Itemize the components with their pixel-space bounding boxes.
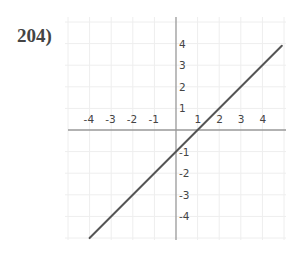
x-tick-label: -4 [84,113,95,125]
axes [68,17,286,240]
x-tick-label: 1 [195,113,202,125]
x-tick-label: -3 [105,113,115,125]
y-tick-label: 1 [179,102,186,114]
y-tick-label: -4 [179,210,190,222]
x-tick-label: -1 [148,113,158,125]
plotted-line [90,46,282,238]
y-tick-label: 3 [179,59,186,71]
x-tick-label: 3 [238,113,245,125]
y-tick-label: 4 [179,38,186,50]
x-tick-label: -2 [127,113,137,125]
y-tick-label: -2 [179,167,189,179]
line-y-equals-x-minus-1 [90,46,282,238]
x-tick-label: 2 [216,113,223,125]
x-tick-label: 4 [259,113,266,125]
y-tick-label: 2 [179,81,186,93]
coordinate-plane: -4-3-2-112344321-1-2-3-4 [0,0,297,253]
y-tick-label: -3 [179,189,189,201]
